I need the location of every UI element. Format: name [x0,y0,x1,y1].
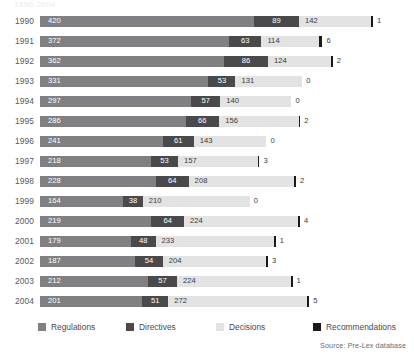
segment-value-label: 331 [48,77,61,85]
row-year-label: 2003 [0,277,40,285]
bar-segment-recommendations [266,256,268,267]
stacked-bar: 286661562 [40,116,300,127]
segment-value-label: 51 [151,297,160,305]
bar-segment-decisions: 233 [156,236,275,247]
chart-row: 1992362861242 [0,51,414,71]
segment-value-label: 64 [163,217,172,225]
bar-segment-directives: 66 [186,116,220,127]
bar-segment-directives: 38 [123,196,142,207]
segment-value-label: 63 [241,37,250,45]
bar-segment-directives: 63 [229,36,261,47]
chart-row: 2000219642244 [0,211,414,231]
bar-segment-recommendations [258,156,260,167]
bar-segment-decisions: 124 [268,56,331,67]
bar-segment-regulations: 420 [40,16,254,27]
bar-segment-decisions: 224 [184,216,298,227]
bar-segment-decisions: 131 [235,76,302,87]
row-year-label: 2001 [0,237,40,245]
segment-value-label: 201 [48,297,61,305]
segment-value-label: 89 [272,17,281,25]
recommendations-value-label: 4 [304,217,308,225]
chart-row: 2003212572241 [0,271,414,291]
stacked-bar: 179482331 [40,236,276,247]
bar-segment-recommendations [299,116,301,127]
row-year-label: 1993 [0,77,40,85]
bar-segment-directives: 53 [151,156,178,167]
segment-value-label: 48 [139,237,148,245]
row-year-label: 1992 [0,57,40,65]
chart-row: 1994297571400 [0,91,414,111]
chart-row: 1996241611430 [0,131,414,151]
bar-segment-recommendations [319,36,322,47]
legend-item-decisions[interactable]: Decisions [216,322,265,332]
stacked-bar: 420891421 [40,16,373,27]
recommendations-value-label: 0 [306,77,310,85]
bar-segment-decisions: 272 [168,296,306,307]
stacked-bar: 219642244 [40,216,300,227]
legend-label: Recommendations [326,322,396,332]
stacked-bar: 331531310 [40,76,302,87]
bar-segment-recommendations [291,276,293,287]
stacked-bar-chart: 1990-2004 199042089142119913726311461992… [0,0,414,356]
bar-segment-decisions: 140 [220,96,291,107]
segment-value-label: 54 [145,257,154,265]
bar-segment-regulations: 286 [40,116,186,127]
bar-segment-regulations: 362 [40,56,224,67]
segment-value-label: 66 [198,117,207,125]
segment-value-label: 228 [48,177,61,185]
row-year-label: 2004 [0,297,40,305]
bar-segment-decisions: 224 [177,276,291,287]
chart-row: 2001179482331 [0,231,414,251]
recommendations-value-label: 6 [326,37,330,45]
row-year-label: 1991 [0,37,40,45]
bar-segment-decisions: 157 [178,156,258,167]
segment-value-label: 86 [242,57,251,65]
legend-label: Directives [139,322,176,332]
segment-value-label: 64 [168,177,177,185]
recommendations-value-label: 2 [337,57,341,65]
bar-segment-decisions: 210 [143,196,250,207]
recommendations-value-label: 0 [271,137,275,145]
legend-swatch-icon [126,323,134,331]
segment-value-label: 57 [158,277,167,285]
recommendations-value-label: 3 [263,157,267,165]
legend-item-directives[interactable]: Directives [126,322,176,332]
segment-value-label: 286 [48,117,61,125]
bar-segment-decisions: 204 [163,256,267,267]
segment-value-label: 420 [48,17,61,25]
bar-segment-directives: 89 [254,16,299,27]
chart-legend: RegulationsDirectivesDecisionsRecommenda… [0,318,414,336]
bar-segment-regulations: 228 [40,176,156,187]
segment-value-label: 114 [267,37,279,45]
bar-segment-directives: 48 [131,236,155,247]
segment-value-label: 156 [225,117,238,125]
bar-segment-regulations: 219 [40,216,151,227]
bar-segment-decisions: 142 [299,16,371,27]
legend-swatch-icon [216,323,224,331]
segment-value-label: 241 [48,137,61,145]
bar-segment-decisions: 208 [189,176,295,187]
legend-swatch-icon [313,323,321,331]
recommendations-value-label: 1 [377,17,381,25]
bar-segment-recommendations [294,176,296,187]
segment-value-label: 224 [190,217,203,225]
segment-value-label: 218 [48,157,61,165]
bar-segment-directives: 51 [142,296,168,307]
bar-segment-recommendations [331,56,333,67]
recommendations-value-label: 0 [295,97,299,105]
recommendations-value-label: 1 [280,237,284,245]
stacked-bar: 164382100 [40,196,250,207]
bar-segment-directives: 61 [163,136,194,147]
row-year-label: 1999 [0,197,40,205]
segment-value-label: 210 [149,197,162,205]
stacked-bar: 241611430 [40,136,266,147]
segment-value-label: 297 [48,97,61,105]
legend-item-recommendations[interactable]: Recommendations [313,322,396,332]
segment-value-label: 57 [201,97,210,105]
recommendations-value-label: 1 [297,277,301,285]
legend-swatch-icon [38,323,46,331]
recommendations-value-label: 2 [304,117,308,125]
legend-item-regulations[interactable]: Regulations [38,322,95,332]
bar-segment-regulations: 187 [40,256,135,267]
stacked-bar: 362861242 [40,56,333,67]
